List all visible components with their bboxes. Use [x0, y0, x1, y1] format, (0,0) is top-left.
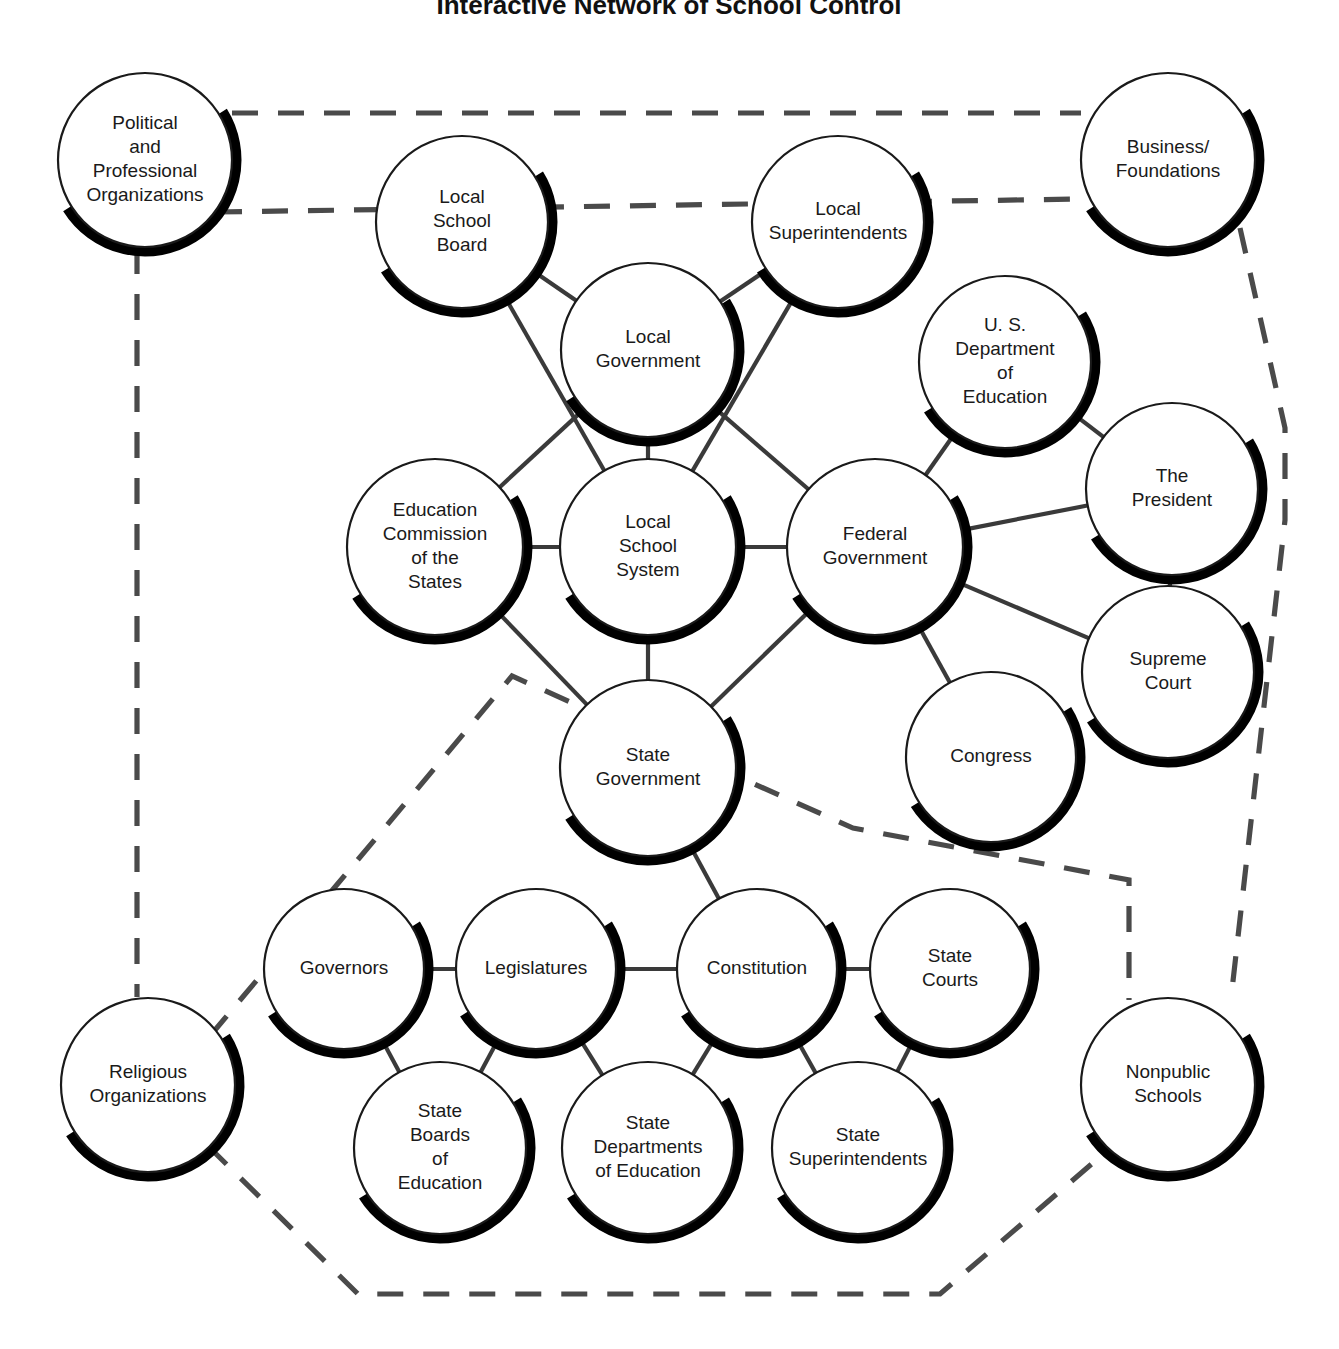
node-statecourts[interactable]: StateCourts [870, 889, 1033, 1052]
link-scotus-to-fedgov [955, 581, 1090, 639]
node-localgov[interactable]: LocalGovernment [561, 263, 738, 440]
diagram-root: Interactive Network of School Control In… [0, 0, 1339, 1349]
link-president-to-fedgov [960, 505, 1088, 530]
link-localgov-to-ecs [499, 408, 585, 488]
node-congress[interactable]: Congress [906, 672, 1079, 845]
node-president[interactable]: ThePresident [1086, 403, 1261, 578]
node-political[interactable]: PoliticalandProfessionalOrganizations [58, 73, 235, 250]
node-governors[interactable]: Governors [264, 889, 427, 1052]
node-localboard[interactable]: LocalSchoolBoard [376, 136, 551, 311]
node-stateboards[interactable]: StateBoardsofEducation [354, 1062, 529, 1237]
node-fedgov[interactable]: FederalGovernment [787, 459, 966, 638]
node-statedepts[interactable]: StateDepartmentsof Education [562, 1062, 737, 1237]
node-statesupts[interactable]: StateSuperintendents [772, 1062, 947, 1237]
node-label-lss: LocalSchoolSystem [616, 511, 679, 581]
network-diagram: Interactive Network of School Control In… [0, 0, 1339, 1349]
node-label-legislatures: Legislatures [485, 957, 587, 978]
node-religious[interactable]: ReligiousOrganizations [61, 998, 238, 1175]
node-constitution[interactable]: Constitution [677, 889, 840, 1052]
node-localsupt[interactable]: LocalSuperintendents [752, 136, 927, 311]
node-business[interactable]: Business/Foundations [1081, 73, 1258, 250]
node-nonpublic[interactable]: NonpublicSchools [1081, 998, 1258, 1175]
dashed-link-political-to-fedgov-area [216, 199, 1083, 212]
link-localgov-to-fedgov [713, 406, 809, 490]
node-scotus[interactable]: SupremeCourt [1082, 586, 1257, 761]
node-label-congress: Congress [950, 745, 1031, 766]
nodes-layer: PoliticalandProfessionalOrganizationsBus… [58, 73, 1261, 1237]
node-stategov[interactable]: StateGovernment [560, 680, 739, 859]
node-label-governors: Governors [300, 957, 389, 978]
page-title: Interactive Network of School Control [436, 0, 901, 20]
node-ecs[interactable]: EducationCommissionof theStates [347, 459, 526, 638]
node-label-constitution: Constitution [707, 957, 807, 978]
dashed-link-business-right-boundary [1232, 228, 1285, 990]
link-ecs-to-stategov [495, 610, 587, 706]
node-usdoe[interactable]: U. S.DepartmentofEducation [919, 276, 1094, 451]
link-fedgov-to-stategov [710, 608, 812, 708]
node-label-localboard: LocalSchoolBoard [433, 186, 491, 256]
node-legislatures[interactable]: Legislatures [456, 889, 619, 1052]
node-lss[interactable]: LocalSchoolSystem [560, 459, 739, 638]
